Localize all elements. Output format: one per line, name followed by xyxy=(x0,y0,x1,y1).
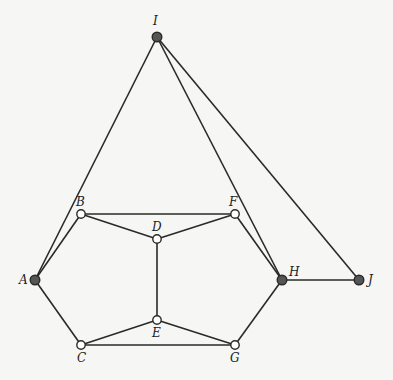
node-label-f: F xyxy=(228,195,238,209)
labels-layer: IABFDHJCEG xyxy=(18,14,374,365)
edge-c-e xyxy=(81,320,157,345)
node-label-g: G xyxy=(230,351,240,365)
edge-i-a xyxy=(35,37,157,280)
edge-f-h xyxy=(235,214,282,280)
edge-f-d xyxy=(157,214,235,239)
node-d xyxy=(153,235,161,243)
node-e xyxy=(153,316,161,324)
edge-e-g xyxy=(157,320,235,345)
edges-layer xyxy=(35,37,359,345)
edge-i-j xyxy=(157,37,359,280)
graph-diagram: IABFDHJCEG xyxy=(0,0,393,380)
edge-i-h xyxy=(157,37,282,280)
edge-a-b xyxy=(35,214,81,280)
node-c xyxy=(77,341,85,349)
node-a xyxy=(30,275,40,285)
node-label-a: A xyxy=(18,273,28,287)
edge-a-c xyxy=(35,280,81,345)
node-h xyxy=(277,275,287,285)
node-label-h: H xyxy=(288,265,300,279)
edge-h-g xyxy=(235,280,282,345)
edge-b-d xyxy=(81,214,157,239)
node-g xyxy=(231,341,239,349)
node-j xyxy=(354,275,364,285)
node-label-b: B xyxy=(75,195,85,209)
node-label-c: C xyxy=(77,351,86,365)
node-f xyxy=(231,210,239,218)
node-label-e: E xyxy=(151,326,161,340)
node-b xyxy=(77,210,85,218)
graph-svg: IABFDHJCEG xyxy=(0,0,393,380)
node-label-d: D xyxy=(151,220,162,234)
node-label-i: I xyxy=(152,14,158,28)
node-i xyxy=(152,32,162,42)
node-label-j: J xyxy=(365,273,374,287)
